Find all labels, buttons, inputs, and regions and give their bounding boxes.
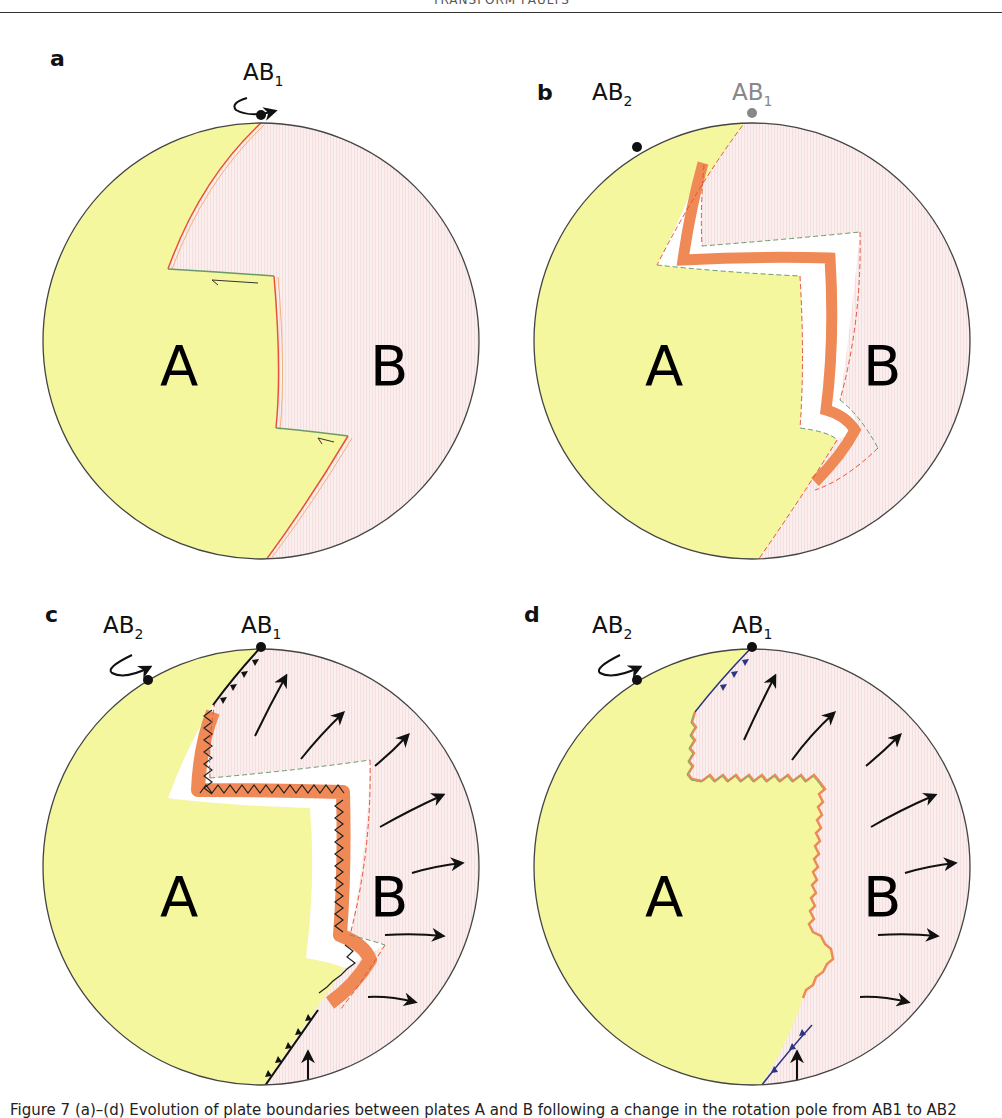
plate-b-label: B	[863, 333, 901, 398]
panel-letter-b: b	[537, 80, 553, 105]
rotation-pole-ab1	[256, 642, 266, 652]
rotation-pole-ab2	[143, 675, 153, 685]
figure-caption: Figure 7 (a)–(d) Evolution of plate boun…	[10, 1101, 992, 1118]
rotation-pole-ab1	[747, 642, 757, 652]
rotation-arrow-icon	[599, 655, 640, 675]
panel-letter-c: c	[45, 602, 58, 627]
rotation-arrow-icon	[111, 655, 150, 675]
panel-b: b A B AB2 AB1	[500, 79, 970, 560]
plate-a-label: A	[645, 864, 683, 929]
pole-label-ab2: AB2	[592, 79, 632, 109]
plate-b-label: B	[863, 864, 901, 929]
plate-a-label: A	[160, 333, 198, 398]
rotation-pole-ab2	[632, 675, 642, 685]
plate-a-label: A	[645, 333, 683, 398]
panel-d: d A B	[500, 602, 970, 1090]
panel-letter-d: d	[524, 602, 540, 627]
pole-label-ab1: AB1	[732, 612, 772, 642]
pole-label-ab1: AB1	[241, 612, 281, 642]
rotation-arrow-icon	[234, 98, 275, 114]
rotation-pole-ab2	[632, 142, 642, 152]
plate-b-label: B	[370, 864, 408, 929]
panel-c: c	[0, 602, 479, 1090]
rotation-pole-ab1-old	[747, 108, 757, 118]
plate-a-label: A	[160, 864, 198, 929]
pole-label-ab1-old: AB1	[732, 79, 772, 109]
figure: a A B AB1 b A B	[0, 0, 1002, 1118]
pole-label-ab1: AB1	[243, 59, 283, 89]
panel-letter-a: a	[50, 46, 65, 71]
pole-label-ab2: AB2	[103, 612, 143, 642]
pole-label-ab2: AB2	[592, 612, 632, 642]
panel-a: a A B AB1	[0, 46, 479, 560]
plate-b-label: B	[370, 333, 408, 398]
